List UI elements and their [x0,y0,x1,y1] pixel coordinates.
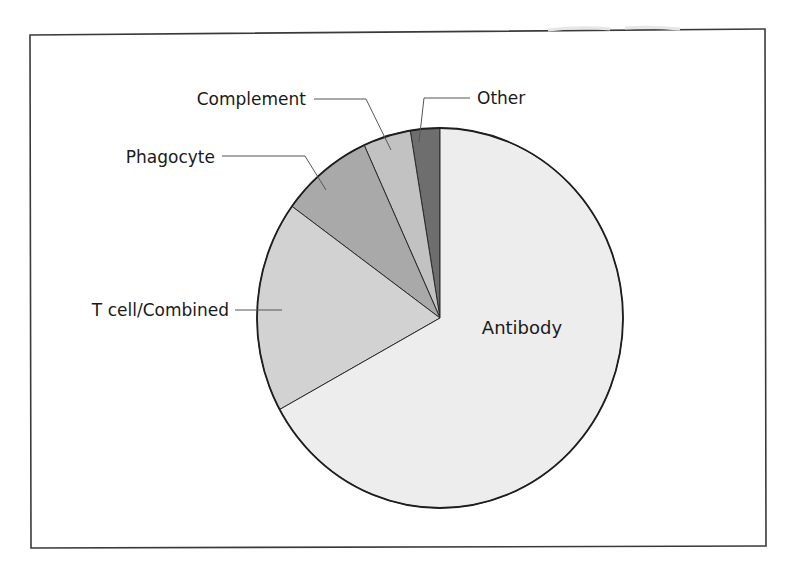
label-tcell-combined: T cell/Combined [91,300,229,320]
label-phagocyte: Phagocyte [126,147,215,167]
label-antibody: Antibody [482,317,563,338]
pie-chart: Complement Other Phagocyte T cell/Combin… [0,0,794,576]
label-complement: Complement [197,89,307,109]
pie-slices [257,128,623,508]
label-other: Other [477,88,525,108]
